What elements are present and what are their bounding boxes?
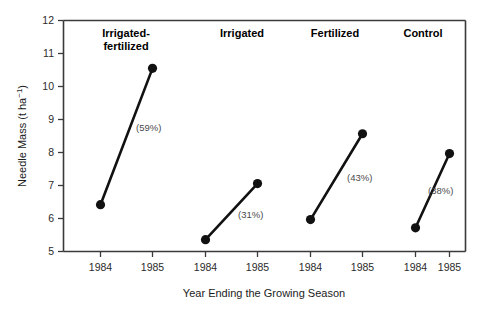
percent-increase-label: (43%) (347, 172, 372, 183)
group-title-irrigated: Irrigated (220, 27, 264, 39)
x-tick-label-4: 1984 (299, 261, 323, 273)
data-point-1984 (96, 200, 105, 209)
group-title-irrigated-fertilized-line1: Irrigated- (102, 27, 150, 39)
x-tick-label-7: 1985 (438, 261, 462, 273)
y-tick-label-10: 10 (42, 80, 54, 92)
x-tick-label-3: 1985 (246, 261, 270, 273)
data-point-1984 (201, 235, 210, 244)
percent-increase-label: (31%) (238, 209, 263, 220)
y-tick-label-9: 9 (48, 113, 54, 125)
x-tick-label-1: 1985 (141, 261, 165, 273)
y-tick-label-11: 11 (43, 47, 54, 59)
x-tick-label-2: 1984 (194, 261, 218, 273)
data-point-1985 (148, 64, 157, 73)
y-axis-title-group: Needle Mass (t ha−1) (15, 85, 28, 187)
y-tick-label-7: 7 (48, 179, 54, 191)
data-point-1985 (445, 149, 454, 158)
chart-figure: 5 6 7 8 9 10 11 12 1984 1985 1984 1985 1… (0, 0, 479, 314)
y-axis-title-base: Needle Mass (t ha (16, 97, 28, 187)
group-title-irrigated-fertilized-line2: fertilized (103, 40, 148, 52)
x-tick-label-6: 1984 (404, 261, 428, 273)
data-point-1985 (358, 129, 367, 138)
data-point-1984 (411, 223, 420, 232)
y-tick-label-8: 8 (48, 146, 54, 158)
data-point-1985 (253, 179, 262, 188)
percent-increase-label: (38%) (428, 185, 453, 196)
x-tick-label-0: 1984 (89, 261, 113, 273)
y-tick-label-6: 6 (48, 212, 54, 224)
needle-mass-line-chart: 5 6 7 8 9 10 11 12 1984 1985 1984 1985 1… (0, 0, 479, 314)
y-axis-title-close: ) (16, 85, 28, 89)
percent-increase-label: (59%) (136, 122, 161, 133)
y-tick-label-12: 12 (42, 14, 54, 26)
group-title-control: Control (403, 27, 442, 39)
x-axis-title: Year Ending the Growing Season (183, 287, 345, 299)
y-tick-label-5: 5 (48, 245, 54, 257)
data-point-1984 (306, 215, 315, 224)
y-axis-title: Needle Mass (t ha−1) (15, 85, 28, 187)
x-tick-label-5: 1985 (351, 261, 375, 273)
group-title-fertilized: Fertilized (311, 27, 359, 39)
